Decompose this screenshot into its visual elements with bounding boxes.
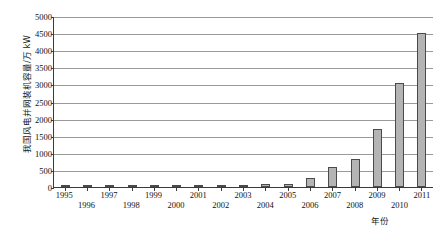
x-axis-tick-label: 2006 [290, 200, 330, 210]
bar-slot [210, 17, 232, 187]
x-axis-tick-label: 1998 [111, 200, 151, 210]
x-axis-tick-label: 1995 [44, 190, 84, 200]
x-axis-tick-label: 2001 [178, 190, 218, 200]
bar-slot [366, 17, 388, 187]
x-axis-tick-label: 2000 [156, 200, 196, 210]
x-axis-tick-label: 2010 [379, 200, 419, 210]
bar [417, 33, 426, 187]
x-axis-tick-label: 1997 [89, 190, 129, 200]
bar-slot [232, 17, 254, 187]
x-axis-tick-label: 1996 [67, 200, 107, 210]
x-axis-tick-label: 2008 [335, 200, 375, 210]
y-axis-tick-label: 3000 [16, 81, 52, 89]
y-axis-tick-label: 5000 [16, 13, 52, 21]
bar-slot [299, 17, 321, 187]
y-axis-tick-label: 4500 [16, 30, 52, 38]
bar-slot [277, 17, 299, 187]
x-axis-tick-label: 2002 [201, 200, 241, 210]
y-axis-tick-label: 1000 [16, 150, 52, 158]
y-axis-tick-label: 2000 [16, 116, 52, 124]
x-axis-tick-label: 2007 [312, 190, 352, 200]
bar-slot [255, 17, 277, 187]
x-axis-tick-label: 2004 [245, 200, 285, 210]
y-axis-tick-label: 1500 [16, 133, 52, 141]
y-axis-tick-label: 3500 [16, 64, 52, 72]
bar-series [54, 17, 433, 187]
bar-slot [188, 17, 210, 187]
bar [351, 159, 360, 187]
bar-slot [322, 17, 344, 187]
x-axis-tick-label: 2009 [357, 190, 397, 200]
bar-slot [143, 17, 165, 187]
bar-slot [99, 17, 121, 187]
wind-power-capacity-bar-chart: 我国风电并网装机容量/万 kW 050010001500200025003000… [0, 0, 441, 237]
bar-slot [54, 17, 76, 187]
y-axis-tick-label: 2500 [16, 99, 52, 107]
bar [395, 83, 404, 187]
bar [306, 178, 315, 187]
x-axis-tick-labels: 1995199619971998199920002001200220032004… [53, 189, 433, 215]
y-axis-tick-labels: 0500100015002000250030003500400045005000 [16, 0, 52, 237]
bar-slot [388, 17, 410, 187]
x-axis-tick-label: 2011 [402, 190, 441, 200]
bar-slot [344, 17, 366, 187]
x-axis-title: 年份 [371, 214, 431, 226]
bar [373, 129, 382, 187]
bar-slot [76, 17, 98, 187]
bar-slot [165, 17, 187, 187]
plot-area [53, 17, 433, 188]
x-axis-tick-label: 1999 [134, 190, 174, 200]
x-axis-tick-label: 2005 [268, 190, 308, 200]
y-axis-tick-label: 500 [16, 167, 52, 175]
x-axis-tick-label: 2003 [223, 190, 263, 200]
bar-slot [121, 17, 143, 187]
bar-slot [411, 17, 433, 187]
bar [328, 167, 337, 187]
y-axis-tick-label: 4000 [16, 47, 52, 55]
